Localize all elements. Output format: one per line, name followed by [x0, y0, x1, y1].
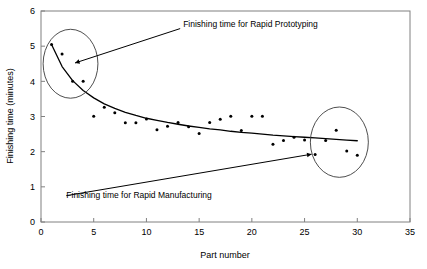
data-point: [240, 129, 243, 132]
finishing-time-scatter-chart: 05101520253035 0123456 Finishing time fo…: [0, 0, 427, 269]
data-point: [303, 139, 306, 142]
data-point: [50, 43, 53, 46]
x-axis-title: Part number: [200, 250, 250, 260]
x-tick-label: 35: [405, 227, 415, 237]
x-tick-label: 15: [194, 227, 204, 237]
chart-container: 05101520253035 0123456 Finishing time fo…: [0, 0, 427, 269]
data-point: [282, 139, 285, 142]
y-axis-title: Finishing time (minutes): [5, 68, 15, 164]
data-point: [103, 106, 106, 109]
data-point: [208, 121, 211, 124]
data-point: [113, 111, 116, 114]
data-point: [261, 115, 264, 118]
data-point: [271, 143, 274, 146]
y-tick-label: 4: [30, 77, 35, 87]
data-point: [345, 149, 348, 152]
y-tick-label: 1: [30, 182, 35, 192]
data-point: [293, 136, 296, 139]
annotation-label-rapid-manufacturing: Finishing time for Rapid Manufacturing: [66, 190, 212, 200]
y-tick-label: 0: [30, 217, 35, 227]
x-tick-label: 25: [300, 227, 310, 237]
y-tick-label: 3: [30, 112, 35, 122]
x-tick-label: 30: [352, 227, 362, 237]
data-point: [324, 139, 327, 142]
data-point: [229, 115, 232, 118]
data-point: [61, 52, 64, 55]
data-point: [177, 121, 180, 124]
x-tick-label: 0: [38, 227, 43, 237]
y-tick-label: 2: [30, 147, 35, 157]
data-point: [335, 129, 338, 132]
data-point: [155, 128, 158, 131]
data-point: [145, 117, 148, 120]
data-point: [166, 125, 169, 128]
x-tick-label: 20: [247, 227, 257, 237]
data-point: [187, 125, 190, 128]
y-tick-label: 5: [30, 41, 35, 51]
x-tick-label: 5: [91, 227, 96, 237]
data-point: [134, 121, 137, 124]
data-point: [356, 154, 359, 157]
data-point: [124, 121, 127, 124]
data-point: [314, 153, 317, 156]
data-point: [250, 115, 253, 118]
data-point: [198, 132, 201, 135]
annotation-label-rapid-prototyping: Finishing time for Rapid Prototyping: [183, 19, 318, 29]
data-point: [92, 115, 95, 118]
y-tick-label: 6: [30, 6, 35, 16]
x-tick-label: 10: [141, 227, 151, 237]
data-point: [71, 80, 74, 83]
data-point: [219, 118, 222, 121]
data-point: [82, 80, 85, 83]
